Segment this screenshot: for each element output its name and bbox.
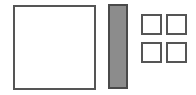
small-square-bottom-left	[141, 42, 162, 63]
small-square-top-left	[141, 14, 162, 35]
tall-gray-bar	[108, 4, 128, 89]
large-square	[13, 5, 96, 90]
small-square-bottom-right	[166, 42, 187, 63]
small-square-top-right	[166, 14, 187, 35]
